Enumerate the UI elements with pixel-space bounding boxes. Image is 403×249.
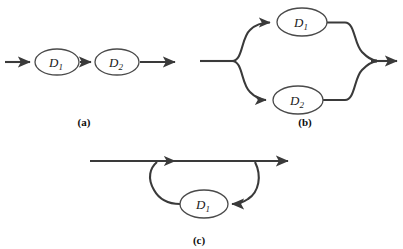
edge-b-d1-to-merge: [327, 23, 377, 61]
edge-b-d2-to-merge: [323, 62, 377, 101]
edge-b-split-to-d2: [232, 61, 266, 100]
figure-root: D1 D2 (a) D1 D2 (b): [0, 0, 403, 249]
panel-b-parallel: D1 D2 (b): [200, 8, 397, 129]
caption-panel-b: (b): [298, 116, 312, 129]
block-diagram-figure: D1 D2 (a) D1 D2 (b): [0, 0, 403, 249]
edge-c-loop-down-to-d1: [232, 162, 259, 204]
panel-a-series: D1 D2 (a): [5, 49, 175, 129]
panel-c-feedback: D1 (c): [90, 161, 288, 247]
edge-b-split-to-d1: [232, 23, 270, 62]
caption-panel-a: (a): [78, 116, 91, 129]
edge-c-loop-back-to-main: [150, 162, 180, 204]
caption-panel-c: (c): [193, 234, 206, 247]
